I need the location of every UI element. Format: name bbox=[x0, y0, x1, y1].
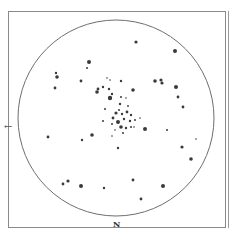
star bbox=[97, 88, 100, 91]
star bbox=[102, 86, 104, 88]
star bbox=[153, 79, 157, 83]
star bbox=[159, 78, 162, 81]
star bbox=[130, 114, 132, 116]
field-of-view-circle bbox=[18, 20, 214, 216]
east-arrow-icon: ← bbox=[4, 121, 12, 132]
star bbox=[55, 72, 57, 74]
star bbox=[134, 40, 137, 43]
star bbox=[119, 125, 123, 129]
star bbox=[114, 129, 116, 131]
star bbox=[111, 93, 113, 95]
stars-layer bbox=[47, 40, 197, 200]
star bbox=[174, 85, 178, 89]
star bbox=[195, 138, 197, 140]
star bbox=[122, 132, 124, 134]
star bbox=[161, 184, 165, 188]
star bbox=[108, 96, 112, 100]
star bbox=[120, 96, 122, 98]
star bbox=[117, 147, 119, 149]
star bbox=[103, 187, 105, 189]
star bbox=[111, 135, 113, 137]
star bbox=[95, 90, 99, 94]
star bbox=[114, 111, 117, 114]
star bbox=[180, 145, 183, 148]
star bbox=[66, 179, 69, 182]
star bbox=[123, 118, 125, 120]
star bbox=[173, 49, 177, 53]
star bbox=[102, 120, 104, 122]
star bbox=[116, 120, 120, 124]
star bbox=[112, 117, 115, 120]
star bbox=[166, 129, 168, 131]
star bbox=[189, 157, 193, 161]
star bbox=[129, 120, 131, 122]
star bbox=[130, 126, 132, 128]
star bbox=[62, 183, 65, 186]
star bbox=[140, 198, 143, 201]
north-label: N bbox=[113, 219, 120, 229]
star bbox=[90, 133, 94, 137]
star bbox=[131, 88, 135, 92]
star bbox=[121, 113, 123, 115]
star-chart bbox=[0, 0, 230, 238]
star bbox=[111, 123, 113, 125]
star bbox=[134, 119, 136, 121]
star bbox=[126, 111, 129, 114]
star bbox=[143, 127, 147, 131]
star bbox=[125, 127, 127, 129]
star bbox=[177, 96, 180, 99]
star bbox=[120, 80, 122, 82]
chart-frame bbox=[9, 12, 226, 228]
star bbox=[125, 97, 127, 99]
star bbox=[160, 81, 163, 84]
star bbox=[119, 103, 121, 105]
star bbox=[139, 117, 141, 119]
star bbox=[80, 80, 83, 83]
star bbox=[106, 77, 108, 79]
star bbox=[81, 139, 83, 141]
star bbox=[47, 136, 50, 139]
star bbox=[127, 105, 129, 107]
star bbox=[55, 75, 59, 79]
star bbox=[54, 87, 57, 90]
star bbox=[86, 67, 88, 69]
star bbox=[104, 108, 106, 110]
star bbox=[118, 109, 120, 111]
star bbox=[108, 88, 110, 90]
star bbox=[133, 126, 135, 128]
star bbox=[87, 60, 91, 64]
star bbox=[109, 79, 111, 81]
star bbox=[79, 184, 83, 188]
star bbox=[132, 179, 135, 182]
star bbox=[182, 106, 185, 109]
